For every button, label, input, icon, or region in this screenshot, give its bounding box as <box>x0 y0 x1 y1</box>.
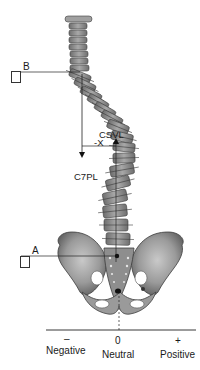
axis-positive-label: Positive <box>160 349 195 360</box>
axis-negative-label: Negative <box>46 345 85 356</box>
axis-positive-sign: + <box>175 335 181 346</box>
label-x: -X <box>94 137 104 148</box>
label-c7pl: C7PL <box>74 171 98 182</box>
axis-negative-sign: – <box>64 333 70 344</box>
label-b: B <box>23 61 30 72</box>
box-b <box>11 71 21 83</box>
spine-diagram <box>0 0 200 370</box>
label-a: A <box>32 245 39 256</box>
box-a <box>20 256 30 268</box>
axis-neutral-label: Neutral <box>102 349 134 360</box>
axis-neutral-sign: 0 <box>115 335 121 346</box>
